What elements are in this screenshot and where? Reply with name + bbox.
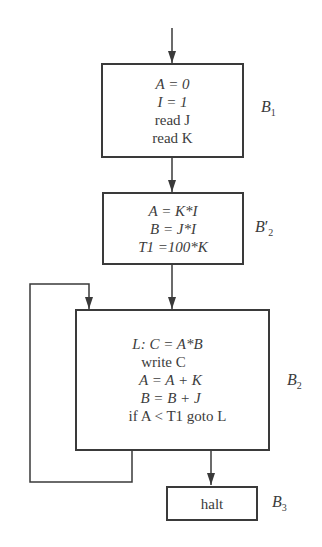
block-b3: halt xyxy=(166,486,258,521)
block-b2: L: C = A*B write C A = A + K B = B + J i… xyxy=(75,309,270,451)
b1-line-4: read K xyxy=(152,129,192,147)
block-label-b2prime: B′2 xyxy=(255,218,273,238)
b2-line-4: B = B + J xyxy=(140,389,200,407)
b1-line-1: A = 0 xyxy=(155,75,189,93)
block-label-b2: B2 xyxy=(287,371,302,391)
b3-line-1: halt xyxy=(201,495,224,513)
b2-line-3: A = A + K xyxy=(139,371,202,389)
block-b1: A = 0 I = 1 read J read K xyxy=(101,63,244,158)
b1-line-3: read J xyxy=(155,111,190,129)
block-label-b1: B1 xyxy=(261,98,276,118)
b2prime-line-1: A = K*I xyxy=(148,202,197,220)
block-b2prime: A = K*I B = J*I T1 =100*K xyxy=(102,192,244,265)
b2-line-1: L: C = A*B xyxy=(132,335,202,353)
block-label-b3: B3 xyxy=(272,493,287,513)
b2-line-2: write C xyxy=(141,353,186,371)
b1-line-2: I = 1 xyxy=(157,93,187,111)
b2-line-5: if A < T1 goto L xyxy=(129,407,227,425)
b2prime-line-2: B = J*I xyxy=(150,220,196,238)
b2prime-line-3: T1 =100*K xyxy=(138,238,208,256)
